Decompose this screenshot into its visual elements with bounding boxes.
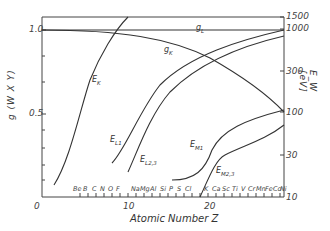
element-label: Cr [248, 185, 255, 193]
element-label: K [204, 185, 208, 193]
element-label: N [100, 185, 105, 193]
curve-E-K [54, 17, 128, 185]
x-tick-10: 10 [123, 201, 134, 211]
element-label: C [92, 185, 97, 193]
y-right-tick-100: 100 [286, 107, 303, 117]
label-g-L: gL [196, 23, 204, 34]
y-left-tick-0.5: 0.5 [29, 108, 43, 118]
element-label: B [83, 185, 87, 193]
element-label: P [169, 185, 173, 193]
label-E-L23: EL2,3 [140, 155, 157, 166]
element-label: Ca [212, 185, 221, 193]
element-label: Al [150, 185, 156, 193]
y-right-tick-30: 30 [286, 150, 297, 160]
y-right-tick-1500: 1500 [286, 11, 309, 21]
x-axis-title: Atomic Number Z [130, 213, 218, 224]
y-right-axis-title: E_W [eV] [298, 70, 318, 93]
element-label: Cl [185, 185, 191, 193]
element-label: Na [131, 185, 140, 193]
y-right-tick-10: 10 [286, 192, 297, 202]
element-label: Fe [265, 185, 273, 193]
label-g-K: gK [164, 45, 173, 56]
element-label: Sc [222, 185, 230, 193]
element-label: Ti [232, 185, 238, 193]
label-E-K: EK [92, 75, 101, 86]
element-label: O [108, 185, 113, 193]
element-label: Mg [140, 185, 150, 193]
element-label: S [177, 185, 181, 193]
element-label: F [116, 185, 120, 193]
label-E-M23: EM2,3 [216, 166, 235, 177]
y-right-tick-1000: 1000 [286, 23, 309, 33]
chart-plot [0, 0, 330, 231]
element-label: V [241, 185, 245, 193]
element-label: Ni [280, 185, 287, 193]
element-label: Be [73, 185, 81, 193]
y-left-axis-title: g (W X Y) [6, 69, 16, 120]
x-tick-20: 20 [204, 201, 215, 211]
x-tick-0: 0 [34, 201, 40, 211]
label-E-L1: EL1 [110, 135, 122, 146]
y-left-tick-1.0: 1.0 [29, 24, 43, 34]
curve-g-K [42, 30, 284, 112]
element-label: Si [160, 185, 166, 193]
label-E-M1: EM1 [190, 140, 203, 151]
